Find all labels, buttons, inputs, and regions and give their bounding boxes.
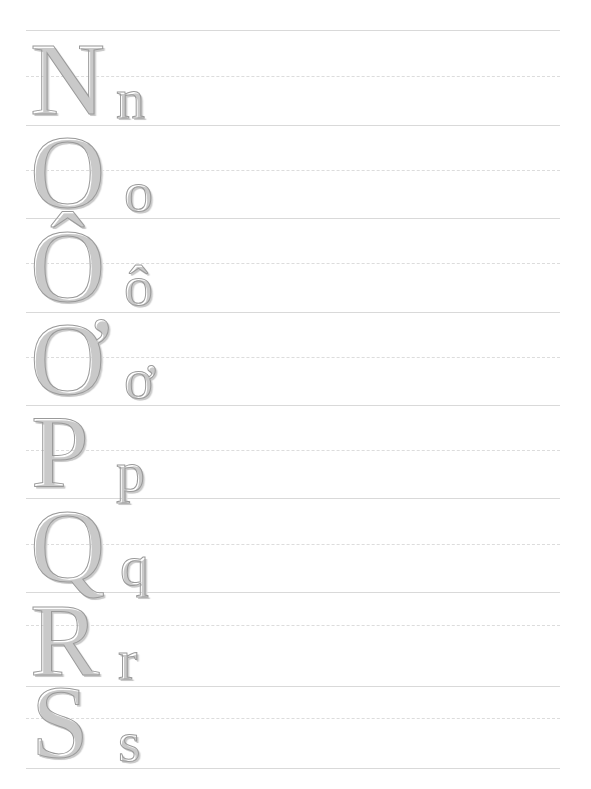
ruled-line-solid [26, 768, 560, 769]
ruled-line-solid [26, 592, 560, 593]
lowercase-letter: p [116, 443, 145, 501]
lowercase-letter: s [118, 713, 141, 771]
ruled-line-solid [26, 218, 560, 219]
ruled-line-dashed [26, 450, 560, 451]
ruled-line-dashed [26, 625, 560, 626]
ruled-line-solid [26, 686, 560, 687]
lowercase-letter: q [120, 537, 149, 595]
ruled-line-dashed [26, 76, 560, 77]
ruled-line-solid [26, 498, 560, 499]
ruled-line-solid [26, 125, 560, 126]
worksheet-page: NnOoÔôƠơPpQqRrSs [0, 0, 591, 789]
ruled-line-dashed [26, 357, 560, 358]
lowercase-letter: r [118, 631, 137, 689]
ruled-line-solid [26, 312, 560, 313]
ruled-line-solid [26, 30, 560, 31]
lowercase-letter: ơ [124, 350, 155, 408]
lowercase-letter: n [116, 70, 145, 128]
ruled-line-solid [26, 405, 560, 406]
lowercase-letter: ô [124, 257, 153, 315]
lowercase-letter: o [124, 163, 153, 221]
ruled-line-dashed [26, 263, 560, 264]
ruled-line-dashed [26, 170, 560, 171]
ruled-line-dashed [26, 718, 560, 719]
uppercase-letter: S [31, 670, 89, 774]
ruled-line-dashed [26, 544, 560, 545]
